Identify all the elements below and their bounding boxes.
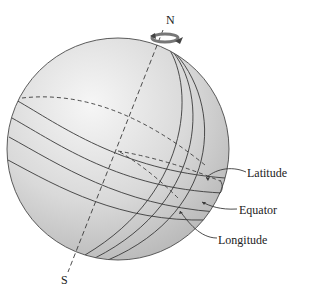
latitude-label: Latitude: [247, 167, 287, 179]
equator-label: Equator: [239, 204, 277, 216]
globe-figure: [0, 0, 311, 307]
globe-sphere: [7, 38, 229, 260]
curved-rotation-arrow-icon: [150, 33, 183, 44]
longitude-label: Longitude: [218, 234, 267, 246]
globe-diagram: N S Latitude Equator Longitude: [0, 0, 311, 307]
north-label: N: [166, 14, 175, 26]
south-label: S: [61, 274, 68, 286]
